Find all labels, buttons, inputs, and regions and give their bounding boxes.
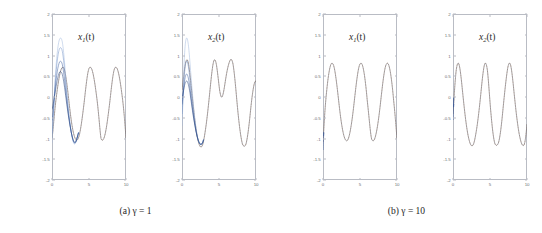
x-tick-label: 5 [489, 182, 491, 187]
x-tick-label: 5 [359, 182, 361, 187]
panel-x2-gamma10: 2 1.5 1 0.5 0 -0.5 -1 -1.5 -2 0 [429, 6, 529, 188]
y-tick-label: 2 [47, 12, 49, 17]
panel-title-arg: (t) [215, 32, 224, 42]
x-tick-label: 0 [452, 182, 454, 187]
x-tick-label: 5 [88, 182, 90, 187]
x-tick-label: 10 [254, 182, 259, 187]
y-tick-label: -1 [447, 136, 451, 141]
panel-title-arg: (t) [356, 32, 365, 42]
panel-title-arg: (t) [85, 32, 94, 42]
y-tick-label: 1.5 [44, 32, 50, 37]
y-tick-label: 1 [318, 53, 320, 58]
y-tick-label: -1.5 [42, 157, 49, 162]
y-tick-label: 1 [47, 53, 49, 58]
panel-title-x2: x2(t) [479, 32, 495, 43]
panel-x1-gamma10: 2 1.5 1 0.5 0 -0.5 -1 -1.5 -2 0 [299, 6, 399, 188]
y-tick-label: -1 [46, 136, 50, 141]
x-tick-label: 5 [218, 182, 220, 187]
panel-x1-gamma1: 2 1.5 1 0.5 0 -0.5 -1 -1.5 -2 0 [28, 6, 128, 188]
x-tick-label: 0 [51, 182, 53, 187]
figure-root: 2 1.5 1 0.5 0 -0.5 -1 -1.5 -2 0 [0, 0, 542, 233]
y-tick-label: 0 [318, 95, 320, 100]
panel-title-x1: x1(t) [349, 32, 365, 43]
series-trajectory-1 [182, 38, 204, 144]
y-tick-label: -2 [317, 178, 321, 183]
subfigure-caption-b: (b) γ = 10 [271, 206, 542, 216]
y-tick-label: -2 [176, 178, 180, 183]
y-tick-label: 0 [177, 95, 179, 100]
series-trajectory-4 [182, 81, 204, 144]
y-tick-label: 2 [448, 12, 450, 17]
y-tick-label: -2 [447, 178, 451, 183]
y-tick-label: 1.5 [174, 32, 180, 37]
y-tick-label: -1 [176, 136, 180, 141]
y-tick-label: 0.5 [315, 74, 321, 79]
y-tick-label: 1 [177, 53, 179, 58]
figure-group-a: 2 1.5 1 0.5 0 -0.5 -1 -1.5 -2 0 [0, 0, 271, 233]
figure-group-b: 2 1.5 1 0.5 0 -0.5 -1 -1.5 -2 0 [271, 0, 542, 233]
x-tick-label: 0 [322, 182, 324, 187]
x-tick-label: 10 [395, 182, 400, 187]
y-tick-label: 0.5 [174, 74, 180, 79]
y-tick-label: 2 [318, 12, 320, 17]
series-trajectory-2 [52, 48, 79, 144]
y-tick-label: -0.5 [443, 115, 450, 120]
series-reference-dotted [323, 63, 397, 142]
y-tick-label: 0 [448, 95, 450, 100]
y-tick-label: 0.5 [445, 74, 451, 79]
y-tick-label: 2 [177, 12, 179, 17]
series-trajectory-3 [182, 74, 204, 144]
y-tick-label: -0.5 [313, 115, 320, 120]
panel-title-arg: (t) [486, 32, 495, 42]
y-tick-label: 1.5 [315, 32, 321, 37]
x-tick-label: 0 [181, 182, 183, 187]
y-tick-label: -1 [317, 136, 321, 141]
y-tick-label: -0.5 [42, 115, 49, 120]
y-tick-label: -1.5 [172, 157, 179, 162]
series-initial-spread [323, 132, 324, 150]
y-tick-label: -0.5 [172, 115, 179, 120]
subfigure-caption-a: (a) γ = 1 [0, 206, 271, 216]
y-tick-label: 1.5 [445, 32, 451, 37]
y-tick-label: -2 [46, 178, 50, 183]
y-tick-label: -1.5 [313, 157, 320, 162]
panel-x2-gamma1: 2 1.5 1 0.5 0 -0.5 -1 -1.5 -2 0 [158, 6, 258, 188]
panel-title-x2: x2(t) [208, 32, 224, 43]
x-tick-label: 10 [525, 182, 530, 187]
y-tick-label: -1.5 [443, 157, 450, 162]
panel-title-x1: x1(t) [78, 32, 94, 43]
y-tick-label: 0 [47, 95, 49, 100]
y-tick-label: 0.5 [44, 74, 50, 79]
y-tick-label: 1 [448, 53, 450, 58]
x-tick-label: 10 [124, 182, 129, 187]
series-converged [453, 63, 527, 146]
series-converged [323, 63, 397, 142]
